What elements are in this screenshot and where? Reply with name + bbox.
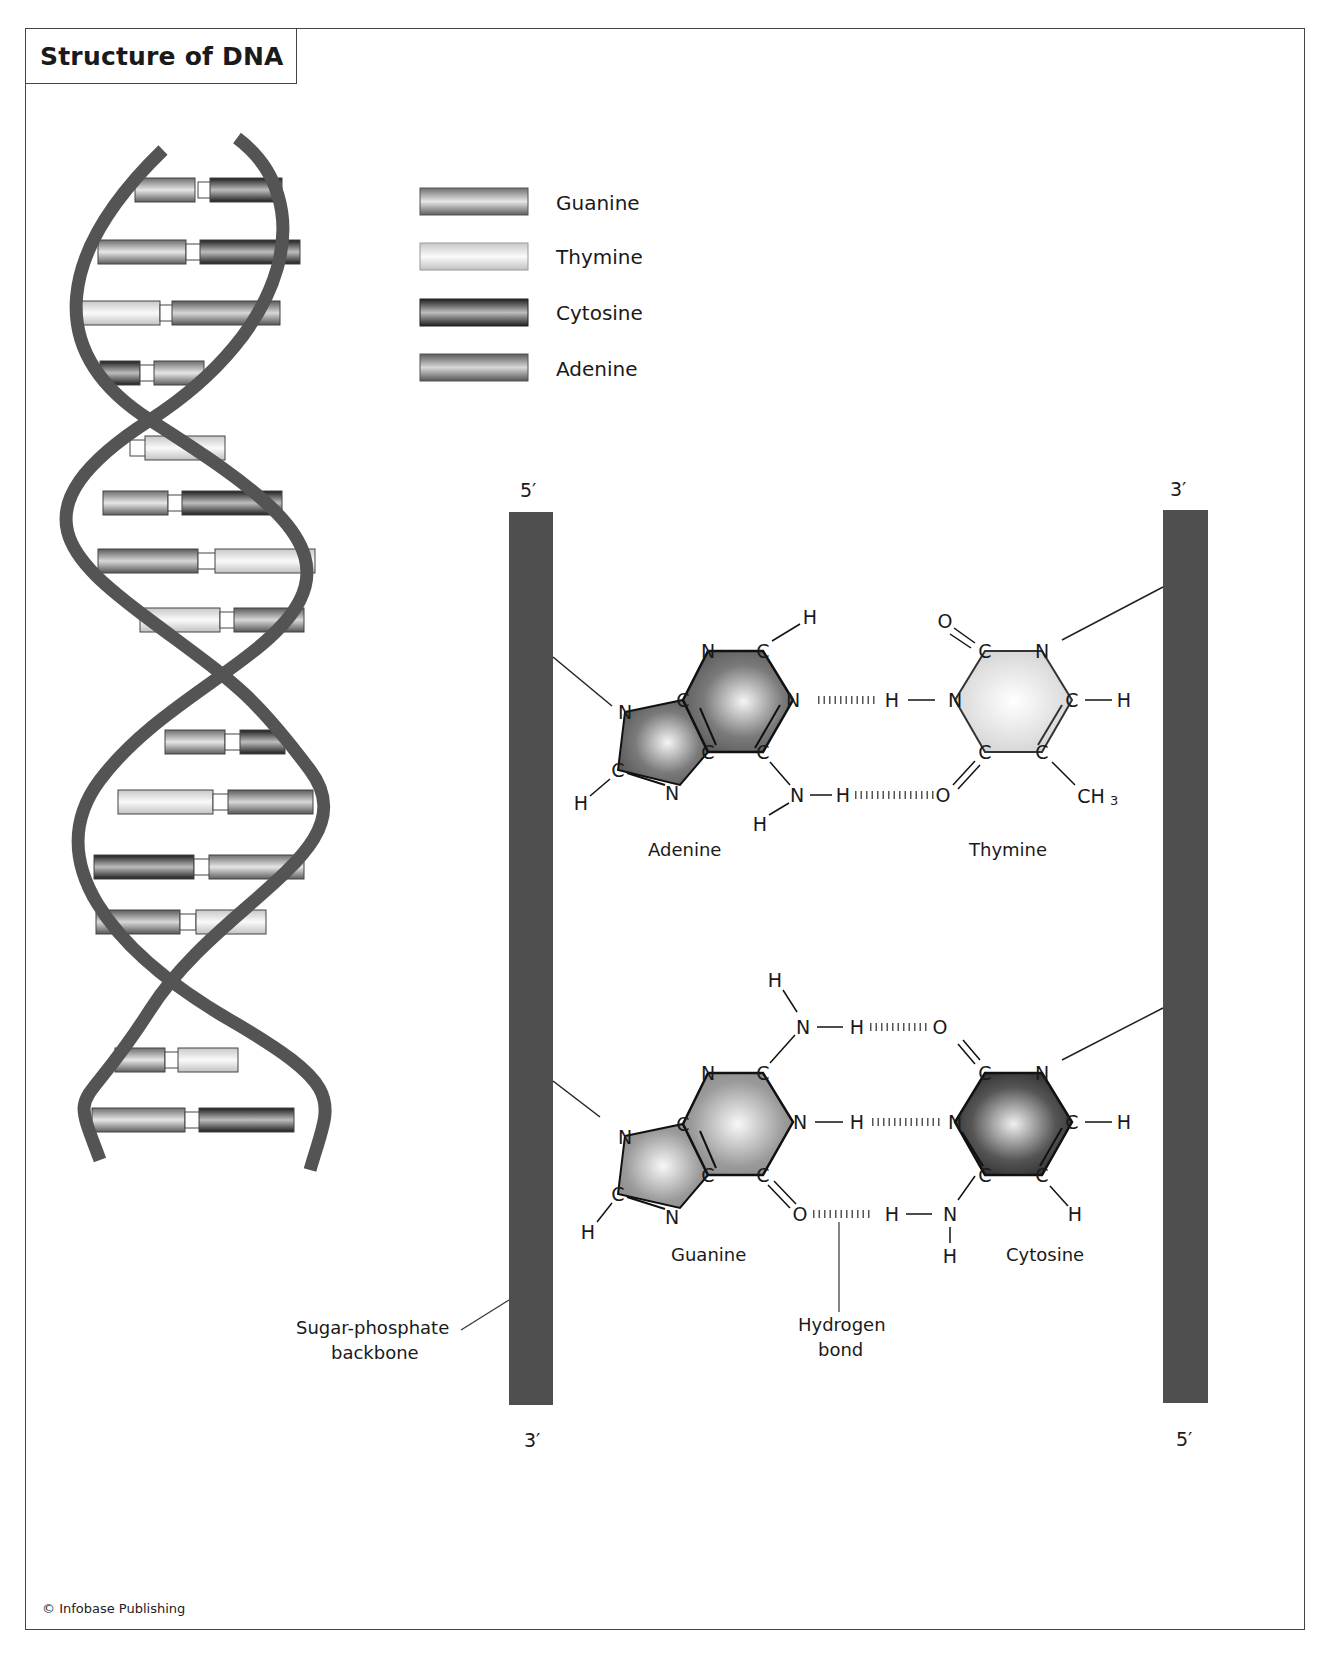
svg-text:C: C [676,1113,689,1135]
svg-text:N: N [1035,1062,1049,1084]
svg-text:N: N [948,1111,962,1133]
base-pair-rung [94,855,304,879]
svg-text:H: H [581,1221,595,1243]
svg-text:H: H [850,1016,864,1038]
hbond-label-line1: Hydrogen [798,1314,886,1335]
svg-text:C: C [1035,741,1048,763]
copyright-credit: © Infobase Publishing [42,1601,185,1616]
backbone-annotation: Sugar-phosphate backbone [296,1300,509,1363]
legend-item-guanine: Guanine [420,188,640,215]
svg-text:H: H [574,792,588,814]
base-pair-rung [115,1048,238,1072]
svg-text:CH: CH [1077,785,1105,807]
strand-left: 5′ 3′ [509,479,553,1451]
svg-text:H: H [803,606,817,628]
svg-text:C: C [1065,1111,1078,1133]
strand-left-top-label: 5′ [520,479,536,501]
guanine-name: Guanine [671,1244,746,1265]
svg-text:N: N [790,784,804,806]
adenine-swatch [420,354,528,381]
base-pair-rung [98,240,300,264]
svg-text:C: C [756,640,769,662]
legend-label-thymine: Thymine [555,245,643,269]
svg-text:C: C [701,1164,714,1186]
legend-item-adenine: Adenine [420,354,638,381]
svg-text:C: C [756,741,769,763]
legend-item-cytosine: Cytosine [420,299,643,326]
base-pair-rung [92,1108,294,1132]
legend-item-thymine: Thymine [420,243,643,270]
svg-text:O: O [936,784,951,806]
svg-text:N: N [618,701,632,723]
legend-label-adenine: Adenine [556,357,638,381]
svg-text:C: C [978,1062,991,1084]
svg-text:N: N [1035,640,1049,662]
svg-text:3: 3 [1110,793,1118,808]
svg-text:C: C [978,1164,991,1186]
guanine-cytosine-pair: NC CN CC NC NH N H H O H O H N H NC NC [553,969,1163,1267]
base-pair-rung [100,361,204,385]
svg-text:C: C [701,741,714,763]
svg-text:N: N [618,1126,632,1148]
svg-text:H: H [885,689,899,711]
svg-text:N: N [948,689,962,711]
svg-text:O: O [933,1016,948,1038]
legend-label-guanine: Guanine [556,191,640,215]
cytosine-name: Cytosine [1006,1244,1084,1265]
svg-text:C: C [756,1062,769,1084]
base-pair-rung [135,178,282,202]
svg-text:N: N [665,1206,679,1228]
svg-text:H: H [836,784,850,806]
hbond-label-line2: bond [818,1339,863,1360]
svg-text:N: N [793,1111,807,1133]
svg-text:H: H [943,1245,957,1267]
svg-text:C: C [611,1183,624,1205]
cytosine-ring [955,1073,1072,1175]
svg-text:H: H [1068,1203,1082,1225]
helix-strand-2 [66,138,324,1160]
svg-text:N: N [665,782,679,804]
svg-text:C: C [978,741,991,763]
hbond-annotation: Hydrogen bond [798,1222,886,1360]
svg-text:C: C [1035,1164,1048,1186]
svg-text:C: C [756,1164,769,1186]
svg-text:H: H [753,813,767,835]
guanine-six-ring [683,1073,793,1175]
thymine-name: Thymine [968,839,1047,860]
svg-text:O: O [938,610,953,632]
svg-text:N: N [796,1016,810,1038]
base-pair-rung [98,549,315,573]
svg-text:N: N [701,1062,715,1084]
svg-text:H: H [1117,1111,1131,1133]
cytosine-swatch [420,299,528,326]
backbone-label-line1: Sugar-phosphate [296,1317,449,1338]
adenine-thymine-pair: NC CN CC NC NH H NH H O H NC NC CC O H C… [553,587,1163,860]
base-pair-rung [118,790,313,814]
legend: Guanine Thymine Cytosine Adenine [420,188,643,381]
svg-text:H: H [885,1203,899,1225]
svg-text:N: N [786,689,800,711]
svg-text:C: C [676,689,689,711]
svg-text:C: C [1065,689,1078,711]
svg-text:N: N [943,1203,957,1225]
svg-text:H: H [768,969,782,991]
strand-left-bottom-label: 3′ [524,1429,540,1451]
svg-text:C: C [611,759,624,781]
thymine-swatch [420,243,528,270]
strand-right-bottom-label: 5′ [1176,1428,1192,1450]
strand-right-top-label: 3′ [1170,478,1186,500]
svg-text:H: H [850,1111,864,1133]
adenine-six-ring [683,651,793,752]
svg-text:C: C [978,640,991,662]
right-backbone [1163,510,1208,1403]
base-pair-rung [165,730,285,754]
adenine-name: Adenine [648,839,721,860]
dna-diagram: Guanine Thymine Cytosine Adenine 5′ 3′ 3… [0,0,1330,1654]
left-backbone [509,512,553,1405]
guanine-swatch [420,188,528,215]
svg-text:H: H [1117,689,1131,711]
thymine-ring [955,651,1072,752]
strand-right: 3′ 5′ [1163,478,1208,1450]
svg-text:N: N [701,640,715,662]
helix-backbones [66,138,325,1170]
